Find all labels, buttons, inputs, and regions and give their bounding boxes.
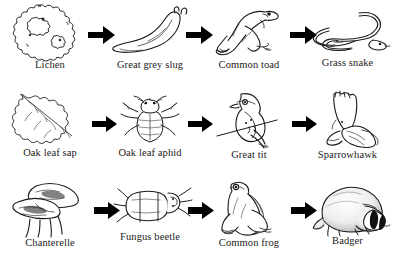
organism-label: Badger [332, 236, 363, 247]
organism-label: Oak leaf aphid [118, 148, 181, 159]
great-tit-icon [211, 90, 287, 150]
arrow-right [88, 25, 116, 45]
right-arrow-icon [94, 201, 121, 220]
arrow-right [186, 25, 214, 45]
organism-great-tit: Great tit [200, 88, 298, 161]
right-arrow-icon [292, 115, 318, 133]
organism-chanterelle: Chanterelle [0, 178, 100, 249]
organism-label: Great tit [231, 150, 267, 161]
arrow-right [291, 201, 318, 220]
oak-leaf-icon [8, 90, 92, 148]
organism-label: Common frog [219, 238, 279, 249]
lichen-icon [8, 2, 92, 60]
arrow-right [292, 115, 318, 133]
organism-label: Great grey slug [117, 60, 183, 71]
food-chain-row-lichen: Lichen Great grey slug [0, 0, 397, 88]
aphid-icon [115, 92, 185, 148]
organism-label: Chanterelle [25, 238, 75, 249]
right-arrow-icon [188, 115, 214, 133]
right-arrow-icon [290, 25, 318, 45]
sparrowhawk-icon [306, 90, 390, 150]
organism-label: Sparrowhawk [318, 150, 377, 161]
food-chain-row-oak: Oak leaf sap [0, 88, 397, 178]
organism-oak-leaf-sap: Oak leaf sap [0, 88, 100, 159]
arrow-right [92, 115, 118, 133]
right-arrow-icon [186, 25, 214, 45]
right-arrow-icon [188, 201, 215, 220]
food-chain-row-chanterelle: Chanterelle [0, 178, 397, 263]
organism-lichen: Lichen [0, 0, 100, 71]
toad-icon [205, 2, 293, 60]
organism-label: Fungus beetle [120, 232, 180, 243]
organism-label: Grass snake [322, 58, 374, 69]
organism-label: Oak leaf sap [23, 148, 77, 159]
food-chain-diagram: Lichen Great grey slug [0, 0, 397, 263]
frog-icon [208, 178, 290, 238]
right-arrow-icon [291, 201, 318, 220]
organism-common-toad: Common toad [200, 0, 298, 71]
organism-label: Lichen [35, 60, 65, 71]
chanterelle-icon [6, 180, 94, 238]
arrow-right [290, 25, 318, 45]
slug-icon [106, 6, 194, 60]
organism-label: Common toad [219, 60, 280, 71]
arrow-right [188, 201, 215, 220]
right-arrow-icon [88, 25, 116, 45]
right-arrow-icon [92, 115, 118, 133]
arrow-right [94, 201, 121, 220]
arrow-right [188, 115, 214, 133]
